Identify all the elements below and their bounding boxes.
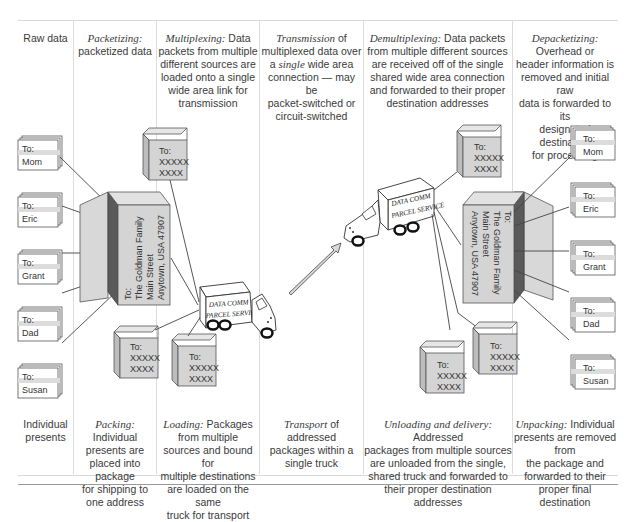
svg-text:XXXX: XXXX xyxy=(437,382,461,392)
svg-text:XXXX: XXXX xyxy=(189,374,213,384)
svg-text:Susan: Susan xyxy=(583,376,609,386)
svg-text:To:: To: xyxy=(130,342,142,352)
svg-text:The Goldman Family: The Goldman Family xyxy=(492,211,502,295)
present-card-eric: To: Eric xyxy=(18,193,62,227)
present-card-dad: To: Dad xyxy=(18,307,62,341)
present-card-grant: To: Grant xyxy=(18,250,62,284)
svg-text:XXXX: XXXX xyxy=(130,364,154,374)
packet-box-bottom-right-2: To: XXXXX XXXX xyxy=(473,322,520,374)
svg-text:XXXX: XXXX xyxy=(159,168,183,178)
svg-text:Main Street: Main Street xyxy=(481,211,491,258)
svg-text:To:: To: xyxy=(22,372,34,382)
package-goldman-left: To: The Goldman Family Main Street Anyto… xyxy=(80,192,170,305)
svg-text:Main Street: Main Street xyxy=(145,253,155,300)
present-card-mom-right: To: Mom xyxy=(571,126,615,160)
svg-text:Grant: Grant xyxy=(583,262,606,272)
present-card-grant-right: To: Grant xyxy=(571,241,615,275)
present-card-dad-right: To: Dad xyxy=(571,298,615,332)
svg-text:To:: To: xyxy=(22,201,34,211)
svg-text:The Goldman Family: The Goldman Family xyxy=(134,216,144,300)
svg-text:To:: To: xyxy=(583,306,595,316)
svg-text:To:: To: xyxy=(503,211,513,223)
svg-text:To:: To: xyxy=(123,288,133,300)
svg-text:XXXXX: XXXXX xyxy=(189,363,219,373)
svg-text:XXXX: XXXX xyxy=(474,164,498,174)
svg-text:To:: To: xyxy=(474,142,486,152)
svg-text:Mom: Mom xyxy=(22,157,42,167)
svg-text:Dad: Dad xyxy=(583,319,600,329)
svg-text:Anytown, USA 47907: Anytown, USA 47907 xyxy=(156,215,166,300)
packet-box-bottom-right-1: To: XXXXX XXXX xyxy=(420,341,467,393)
svg-text:To:: To: xyxy=(189,352,201,362)
svg-text:Mom: Mom xyxy=(583,147,603,157)
packet-box-top-right: To: XXXXX XXXX xyxy=(457,125,504,177)
present-card-susan-right: To: Susan xyxy=(571,355,615,389)
svg-text:XXXXX: XXXXX xyxy=(130,353,160,363)
svg-text:To:: To: xyxy=(22,315,34,325)
svg-text:To:: To: xyxy=(159,146,171,156)
footer-line: truck for transport xyxy=(167,509,249,521)
packet-box-top-left: To: XXXXX XXXX xyxy=(143,128,189,180)
svg-text:Susan: Susan xyxy=(22,385,48,395)
svg-text:Eric: Eric xyxy=(22,214,38,224)
package-goldman-right: To: The Goldman Family Main Street Anyto… xyxy=(463,192,553,303)
svg-text:Grant: Grant xyxy=(22,271,45,281)
transmission-arrow xyxy=(289,243,341,295)
svg-text:To:: To: xyxy=(583,191,595,201)
svg-text:To:: To: xyxy=(490,341,502,351)
svg-text:To:: To: xyxy=(22,258,34,268)
svg-text:To:: To: xyxy=(583,363,595,373)
svg-text:To:: To: xyxy=(583,134,595,144)
svg-text:To:: To: xyxy=(583,249,595,259)
svg-text:Dad: Dad xyxy=(22,328,39,338)
present-card-mom: To: Mom xyxy=(18,136,62,170)
truck-right: DATA COMM PARCEL SERVICE xyxy=(344,178,446,246)
svg-text:To:: To: xyxy=(22,144,34,154)
svg-text:Eric: Eric xyxy=(583,204,599,214)
svg-text:XXXXX: XXXXX xyxy=(490,352,520,362)
present-card-eric-right: To: Eric xyxy=(571,183,615,217)
svg-text:XXXX: XXXX xyxy=(490,363,514,373)
svg-text:XXXXX: XXXXX xyxy=(437,371,467,381)
packet-box-bottom-left-1: To: XXXXX XXXX xyxy=(114,326,160,378)
truck-left: DATA COMM PARCEL SERVICE xyxy=(200,282,276,338)
present-card-susan: To: Susan xyxy=(18,364,62,398)
svg-text:XXXXX: XXXXX xyxy=(474,153,504,163)
packet-box-bottom-left-2: To: XXXXX XXXX xyxy=(172,334,219,386)
svg-text:To:: To: xyxy=(437,360,449,370)
svg-text:XXXXX: XXXXX xyxy=(159,157,189,167)
svg-text:Anytown, USA 47907: Anytown, USA 47907 xyxy=(470,211,480,296)
